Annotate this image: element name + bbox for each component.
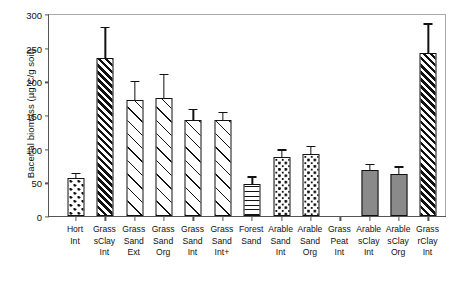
x-tick-label-line: Int: [60, 236, 89, 248]
y-tick-mark: [45, 216, 50, 217]
y-tick-mark: [45, 115, 50, 116]
x-tick-label-line: Sand: [148, 236, 177, 248]
x-tick-mark: [222, 216, 223, 221]
error-bar-cap: [218, 112, 227, 113]
error-bar-cap: [424, 23, 433, 24]
bar-chart-figure: Bacerial biomass (µg C/g soil) 050100150…: [0, 0, 456, 282]
x-tick-label: GrassSandInt: [178, 224, 207, 259]
error-bar: [310, 147, 311, 154]
error-bar: [428, 25, 429, 53]
bar: [68, 178, 85, 216]
x-tick-label-line: Grass: [148, 224, 177, 236]
x-tick-label: GrassSandInt+: [207, 224, 236, 259]
x-tick-mark: [75, 216, 76, 221]
error-bar: [281, 151, 282, 157]
x-tick-label: ArableSandOrg: [295, 224, 324, 259]
error-bar-cap: [160, 74, 169, 75]
x-tick-label-line: Int: [325, 247, 354, 259]
x-tick-label-line: Int: [90, 247, 119, 259]
x-tick-label-line: Arable: [383, 224, 412, 236]
x-tick-mark: [310, 216, 311, 221]
x-tick-label-line: Org: [148, 247, 177, 259]
x-tick-label-line: Int: [354, 247, 383, 259]
bar: [185, 120, 202, 216]
x-tick-mark: [399, 216, 400, 221]
x-tick-label-line: Ext: [119, 247, 148, 259]
x-tick-label-line: sClay: [383, 236, 412, 248]
bar-slot: [61, 15, 90, 216]
bar-slot: [91, 15, 120, 216]
bar-slot: [326, 15, 355, 216]
error-bar: [134, 82, 135, 100]
x-tick-label: ArablesClayInt: [354, 224, 383, 259]
x-tick-label-line: Hort: [60, 224, 89, 236]
x-tick-label-line: Arable: [354, 224, 383, 236]
y-tick-mark: [45, 14, 50, 15]
bar: [420, 53, 437, 216]
y-tick-mark: [45, 149, 50, 150]
bar-slot: [238, 15, 267, 216]
bar-slot: [208, 15, 237, 216]
error-bar: [193, 110, 194, 119]
bar-slot: [355, 15, 384, 216]
bar-slot: [179, 15, 208, 216]
error-bar: [105, 28, 106, 58]
error-bar: [252, 178, 253, 184]
bar-slot: [267, 15, 296, 216]
error-bar: [75, 174, 76, 178]
x-tick-label: GrassSandExt: [119, 224, 148, 259]
x-tick-label-line: Int: [413, 247, 442, 259]
bar: [126, 100, 143, 216]
x-tick-label-line: rClay: [413, 236, 442, 248]
x-tick-label: ArablesClayOrg: [383, 224, 412, 259]
error-bar: [163, 75, 164, 97]
error-bar-cap: [101, 27, 110, 28]
x-tick-label-line: Grass: [413, 224, 442, 236]
error-bar-cap: [248, 176, 257, 177]
x-tick-mark: [340, 216, 341, 221]
error-bar-cap: [189, 109, 198, 110]
x-tick-label-line: Grass: [178, 224, 207, 236]
x-tick-label-line: Sand: [266, 236, 295, 248]
x-tick-label-line: Sand: [237, 236, 266, 248]
x-tick-label-line: Forest: [237, 224, 266, 236]
x-tick-label-line: sClay: [354, 236, 383, 248]
bar-slot: [149, 15, 178, 216]
plot-area: 050100150200250300: [48, 14, 446, 216]
bar: [273, 157, 290, 216]
x-tick-mark: [134, 216, 135, 221]
bar: [156, 98, 173, 217]
error-bar: [369, 165, 370, 170]
x-tick-mark: [428, 216, 429, 221]
bar: [302, 154, 319, 216]
y-tick-mark: [45, 82, 50, 83]
bar: [214, 120, 231, 216]
x-tick-label-line: Peat: [325, 236, 354, 248]
x-tick-label-line: Grass: [207, 224, 236, 236]
error-bar: [398, 168, 399, 174]
bar: [244, 184, 261, 216]
bar-slot: [414, 15, 443, 216]
x-tick-label: GrassSandOrg: [148, 224, 177, 259]
bar-slot: [384, 15, 413, 216]
x-tick-mark: [105, 216, 106, 221]
x-tick-label-line: Int: [266, 247, 295, 259]
error-bar-cap: [72, 173, 81, 174]
error-bar-cap: [277, 149, 286, 150]
x-tick-label-line: Org: [295, 247, 324, 259]
x-tick-mark: [252, 216, 253, 221]
x-axis-tick-labels: HortIntGrasssClayIntGrassSandExtGrassSan…: [48, 224, 446, 280]
bar: [361, 170, 378, 216]
x-tick-label-line: Org: [383, 247, 412, 259]
x-tick-label-line: Grass: [119, 224, 148, 236]
y-tick-mark: [45, 183, 50, 184]
x-tick-label-line: Sand: [119, 236, 148, 248]
error-bar-cap: [130, 81, 139, 82]
x-tick-label: HortInt: [60, 224, 89, 247]
x-tick-mark: [164, 216, 165, 221]
x-tick-label-line: Arable: [295, 224, 324, 236]
x-tick-label-line: Grass: [90, 224, 119, 236]
x-tick-mark: [369, 216, 370, 221]
bar-slot: [120, 15, 149, 216]
x-tick-label: ForestSand: [237, 224, 266, 247]
